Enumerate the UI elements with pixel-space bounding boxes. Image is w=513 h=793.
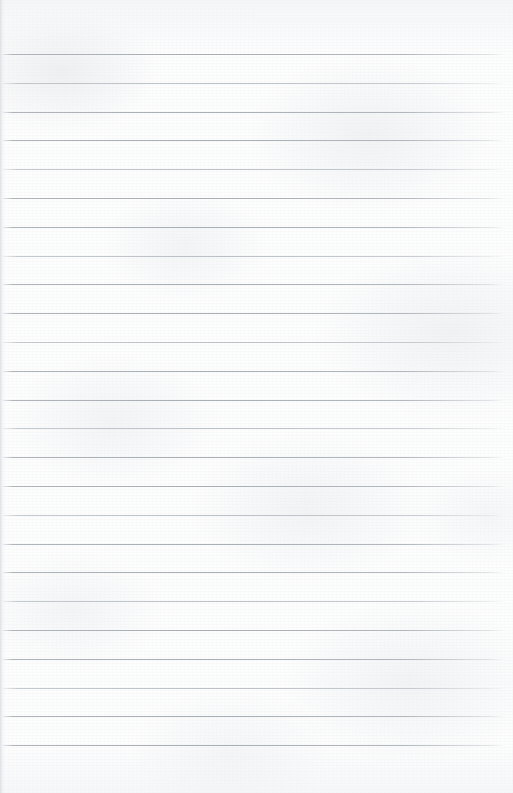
notebook-page — [0, 0, 513, 793]
writing-area[interactable] — [0, 0, 513, 793]
